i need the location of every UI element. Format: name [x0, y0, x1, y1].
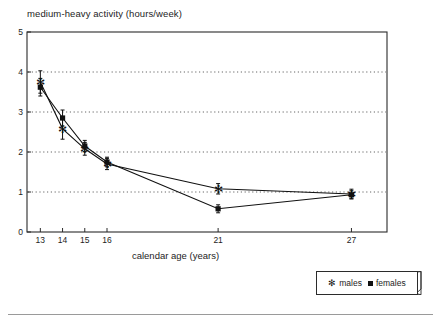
axes-group: [27, 32, 387, 232]
chart-title: medium-heavy activity (hours/week): [27, 8, 182, 19]
data-point-males: ✻: [214, 183, 223, 195]
legend-face: ✻ males females: [316, 271, 418, 295]
x-tick-label-13: 13: [36, 235, 45, 245]
y-tick-label-2: 2: [18, 147, 23, 157]
x-axis-title: calendar age (years): [0, 250, 441, 261]
square-icon: [368, 281, 373, 286]
legend-label-females: females: [376, 278, 406, 288]
asterisk-icon: ✻: [328, 279, 336, 288]
gridlines-group: [28, 72, 386, 192]
x-axis-title-text: calendar age (years): [132, 250, 219, 261]
series-line-males: [40, 82, 351, 194]
legend: ✻ males females: [316, 271, 422, 295]
data-series-group: ✻✻✻✻✻✻: [36, 71, 356, 213]
x-tick-label-27: 27: [347, 235, 356, 245]
x-tick-label-21: 21: [213, 235, 222, 245]
x-tick-label-14: 14: [58, 235, 67, 245]
y-tick-label-1: 1: [18, 187, 23, 197]
data-point-females: [216, 206, 221, 211]
legend-item-females: females: [368, 278, 406, 288]
plot-frame: [27, 32, 387, 232]
footer-divider: [8, 314, 433, 315]
y-tick-label-3: 3: [18, 107, 23, 117]
y-tick-label-5: 5: [18, 27, 23, 37]
data-point-females: [60, 115, 65, 120]
x-tick-label-15: 15: [80, 235, 89, 245]
legend-label-males: males: [339, 278, 362, 288]
data-point-females: [38, 85, 43, 90]
figure-container: medium-heavy activity (hours/week) ✻✻✻✻✻…: [0, 0, 441, 323]
data-point-females: [82, 143, 87, 148]
legend-item-males: ✻ males: [328, 278, 362, 288]
data-point-females: [349, 192, 354, 197]
x-tick-label-16: 16: [102, 235, 111, 245]
data-point-females: [104, 159, 109, 164]
y-tick-label-4: 4: [18, 67, 23, 77]
y-tick-label-0: 0: [18, 227, 23, 237]
